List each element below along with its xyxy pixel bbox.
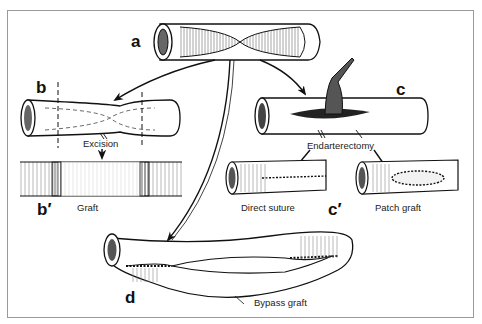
caption-bypass-graft: Bypass graft — [254, 297, 307, 308]
panel-label-c-prime: c′ — [328, 200, 342, 220]
artery-direct-suture — [226, 160, 326, 194]
panel-label-b: b — [36, 78, 46, 98]
artery-a — [154, 24, 320, 60]
surgical-diagram — [0, 0, 482, 324]
caption-direct-suture: Direct suture — [241, 202, 295, 213]
artery-patch-graft — [356, 160, 458, 194]
panel-label-b-prime: b′ — [37, 200, 51, 220]
graft-b-prime — [20, 162, 182, 196]
caption-endarterectomy: Endarterectomy — [307, 140, 374, 151]
panel-label-a: a — [131, 32, 140, 52]
artery-bypass-d — [104, 232, 353, 304]
arrow-to-c — [260, 60, 305, 94]
caption-excision: Excision — [83, 138, 118, 149]
arrow-to-d — [168, 60, 230, 240]
caption-patch-graft: Patch graft — [375, 202, 421, 213]
arrow-to-b — [115, 60, 215, 100]
panel-label-c: c — [396, 80, 405, 100]
artery-c — [255, 58, 428, 170]
panel-label-d: d — [125, 288, 135, 308]
caption-graft: Graft — [77, 202, 98, 213]
